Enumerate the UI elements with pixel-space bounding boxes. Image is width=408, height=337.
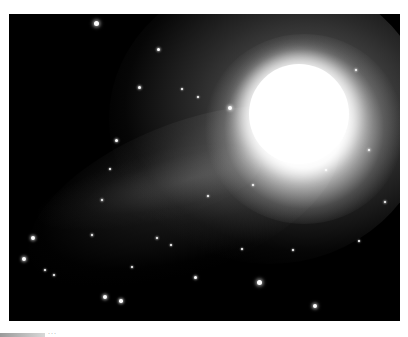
star [138, 86, 141, 89]
star [22, 257, 26, 261]
comet-photo [9, 14, 400, 321]
star [103, 295, 107, 299]
star [119, 299, 123, 303]
caption-text: ··· [48, 330, 57, 337]
star [228, 106, 232, 110]
star [313, 304, 317, 308]
star [252, 184, 254, 186]
star [115, 139, 118, 142]
star [197, 96, 199, 98]
star [194, 276, 197, 279]
star [358, 240, 360, 242]
star [157, 48, 160, 51]
star [31, 236, 35, 240]
star [94, 21, 99, 26]
star [170, 244, 172, 246]
star [207, 195, 209, 197]
caption-bar [0, 333, 45, 337]
star [181, 88, 183, 90]
star [109, 168, 111, 170]
star [241, 248, 243, 250]
star [257, 280, 262, 285]
star [292, 249, 294, 251]
comet-nucleus [249, 64, 349, 164]
